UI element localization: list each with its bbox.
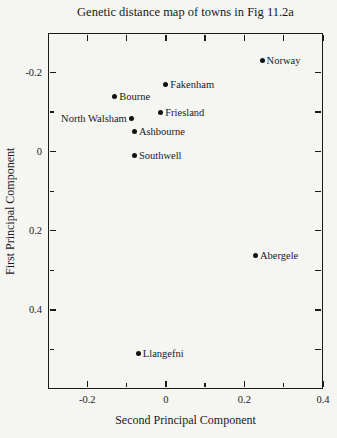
data-point-label-abergele: Abergele	[260, 249, 298, 262]
data-point-label-ashbourne: Ashbourne	[139, 125, 185, 138]
right-axis-tick	[315, 72, 322, 73]
y-axis-tick-label: -0.2	[8, 66, 42, 79]
y-axis-major-tick	[50, 309, 57, 310]
data-point-norway	[260, 58, 265, 63]
y-axis-minor-tick	[50, 270, 54, 271]
x-axis-minor-tick	[204, 383, 205, 387]
x-axis-major-tick	[322, 381, 323, 388]
top-axis-tick	[244, 35, 245, 42]
right-axis-tick	[315, 191, 322, 192]
genetic-distance-scatter-chart: Genetic distance map of towns in Fig 11.…	[0, 0, 337, 438]
data-point-label-llangefni: Llangefni	[143, 347, 184, 360]
y-axis-tick-label: 0	[8, 145, 42, 158]
x-axis-major-tick	[165, 381, 166, 388]
y-axis-minor-tick	[50, 349, 54, 350]
data-point-friesland	[158, 110, 163, 115]
data-point-label-norway: Norway	[267, 54, 301, 67]
x-axis-tick-label: 0.2	[224, 393, 264, 406]
x-axis-tick-label: 0	[146, 393, 186, 406]
data-point-llangefni	[136, 351, 141, 356]
data-point-label-fakenham: Fakenham	[170, 78, 214, 91]
x-axis-major-tick	[244, 381, 245, 388]
right-axis-tick	[315, 349, 322, 350]
x-axis-tick-label: 0.4	[303, 393, 337, 406]
y-axis-tick-label: 0.2	[8, 224, 42, 237]
right-axis-tick	[315, 151, 322, 152]
top-axis-tick	[283, 35, 284, 42]
y-axis-major-tick	[50, 151, 57, 152]
y-axis-major-tick	[50, 230, 57, 231]
right-axis-tick	[315, 270, 322, 271]
x-axis-label: Second Principal Component	[48, 413, 323, 428]
y-axis-major-tick	[50, 72, 57, 73]
x-axis-major-tick	[87, 381, 88, 388]
data-point-label-friesland: Friesland	[165, 106, 204, 119]
right-axis-tick	[315, 111, 322, 112]
data-point-label-north-walsham: North Walsham	[61, 112, 127, 125]
x-axis-minor-tick	[283, 383, 284, 387]
top-axis-tick	[204, 35, 205, 42]
top-axis-tick	[87, 35, 88, 42]
y-axis-minor-tick	[50, 191, 54, 192]
top-axis-tick	[126, 35, 127, 42]
x-axis-tick-label: -0.2	[67, 393, 107, 406]
right-axis-tick	[315, 230, 322, 231]
y-axis-label: First Principal Component	[3, 33, 20, 389]
chart-title: Genetic distance map of towns in Fig 11.…	[48, 5, 323, 20]
top-axis-tick	[165, 35, 166, 42]
right-axis-tick	[315, 309, 322, 310]
y-axis-tick-label: 0.4	[8, 303, 42, 316]
data-point-label-southwell: Southwell	[139, 149, 182, 162]
top-axis-tick	[322, 35, 323, 42]
x-axis-minor-tick	[126, 383, 127, 387]
data-point-label-bourne: Bourne	[119, 90, 150, 103]
y-axis-minor-tick	[50, 111, 54, 112]
data-point-north-walsham	[129, 116, 134, 121]
